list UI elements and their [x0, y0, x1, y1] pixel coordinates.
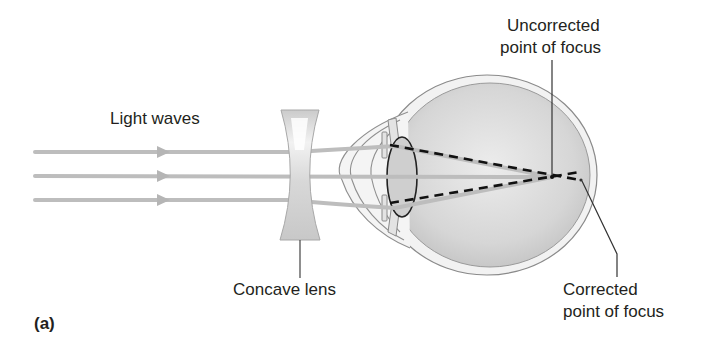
- concave-lens-label: Concave lens: [233, 279, 336, 300]
- uncorrected-focus-point: [550, 175, 554, 179]
- arrow-icon: [157, 194, 170, 206]
- arrow-icon: [157, 146, 170, 158]
- ray-arrows: [157, 146, 170, 206]
- concave-lens: [280, 110, 320, 278]
- corrected-focus-label-line1: Corrected: [563, 279, 638, 300]
- uncorrected-focus-label-line1: Uncorrected: [507, 15, 600, 36]
- arrow-icon: [157, 170, 170, 182]
- panel-label: (a): [34, 313, 55, 334]
- light-waves-label: Light waves: [110, 108, 200, 129]
- corrected-focus-point: [579, 178, 582, 181]
- corrected-focus-label-line2: point of focus: [563, 301, 664, 322]
- uncorrected-focus-label-line2: point of focus: [500, 37, 601, 58]
